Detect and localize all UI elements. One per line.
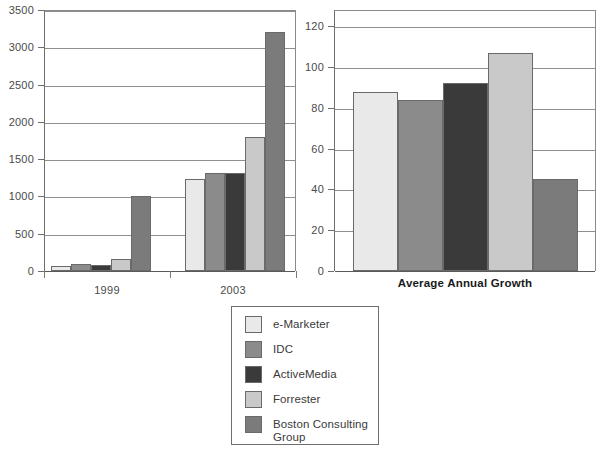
y-tick-mark: [38, 234, 44, 235]
legend-item-label: Boston Consulting Group: [273, 416, 368, 443]
gridline: [45, 123, 295, 124]
legend-swatch-icon: [245, 366, 262, 383]
gridline: [45, 11, 295, 12]
y-tick-mark: [38, 159, 44, 160]
legend-item[interactable]: Forrester: [245, 391, 321, 408]
gridline: [335, 27, 595, 28]
y-tick-mark: [38, 10, 44, 11]
gridline: [45, 86, 295, 87]
y-tick-mark: [38, 196, 44, 197]
bar: [51, 266, 71, 271]
legend-item-label: IDC: [273, 341, 293, 356]
y-tick-mark: [328, 108, 334, 109]
axis-baseline: [335, 271, 595, 272]
y-tick-label: 3000: [0, 42, 34, 53]
legend-item[interactable]: e-Marketer: [245, 316, 330, 333]
y-tick-label: 0: [0, 266, 34, 277]
gridline: [335, 68, 595, 69]
x-tick-label: 2003: [170, 284, 296, 296]
legend-item[interactable]: ActiveMedia: [245, 366, 337, 383]
y-tick-label: 40: [300, 184, 324, 195]
y-tick-mark: [38, 122, 44, 123]
bar: [205, 173, 225, 271]
bar: [443, 83, 488, 271]
x-tick-mark: [296, 271, 297, 278]
bar: [111, 259, 131, 271]
y-tick-label: 80: [300, 103, 324, 114]
y-tick-mark: [328, 271, 334, 272]
growth-axis-title: Average Annual Growth: [334, 277, 596, 289]
bar: [71, 264, 91, 271]
bar: [91, 265, 111, 271]
legend-swatch-icon: [245, 391, 262, 408]
y-tick-label: 3500: [0, 5, 34, 16]
bar: [398, 100, 443, 271]
gridline: [45, 48, 295, 49]
bar: [225, 173, 245, 271]
bar: [185, 179, 205, 271]
bar: [265, 32, 285, 271]
bar: [533, 179, 578, 271]
y-tick-label: 120: [300, 21, 324, 32]
growth-plot-area: [334, 10, 596, 271]
y-tick-mark: [328, 67, 334, 68]
y-tick-label: 20: [300, 225, 324, 236]
legend-swatch-icon: [245, 316, 262, 333]
chart-legend: e-MarketerIDCActiveMediaForresterBoston …: [231, 306, 379, 445]
y-tick-mark: [328, 189, 334, 190]
bar: [488, 53, 533, 271]
y-tick-label: 1500: [0, 154, 34, 165]
chart-figure: 0500100015002000250030003500 19992003 02…: [0, 0, 610, 455]
y-tick-label: 0: [300, 266, 324, 277]
growth-chart-panel: 020406080100120 Average Annual Growth: [300, 0, 610, 300]
revenue-plot-area: [44, 10, 296, 271]
x-tick-label: 1999: [44, 284, 170, 296]
y-tick-mark: [328, 26, 334, 27]
y-tick-label: 1000: [0, 191, 34, 202]
y-tick-label: 60: [300, 144, 324, 155]
y-tick-mark: [38, 47, 44, 48]
y-tick-label: 100: [300, 62, 324, 73]
legend-swatch-icon: [245, 341, 262, 358]
y-tick-mark: [328, 149, 334, 150]
bar: [353, 92, 398, 271]
bar: [131, 196, 151, 271]
x-tick-mark: [44, 271, 45, 278]
legend-item-label: ActiveMedia: [273, 366, 337, 381]
legend-swatch-icon: [245, 416, 262, 433]
y-tick-mark: [328, 230, 334, 231]
revenue-chart-panel: 0500100015002000250030003500 19992003: [0, 0, 300, 300]
y-tick-label: 500: [0, 229, 34, 240]
bar: [245, 137, 265, 271]
legend-item-label: e-Marketer: [273, 316, 330, 331]
y-tick-label: 2000: [0, 117, 34, 128]
x-tick-mark: [170, 271, 171, 278]
y-tick-label: 2500: [0, 80, 34, 91]
legend-item[interactable]: IDC: [245, 341, 293, 358]
legend-item-label: Forrester: [273, 391, 321, 406]
y-tick-mark: [38, 85, 44, 86]
legend-item[interactable]: Boston Consulting Group: [245, 416, 368, 443]
